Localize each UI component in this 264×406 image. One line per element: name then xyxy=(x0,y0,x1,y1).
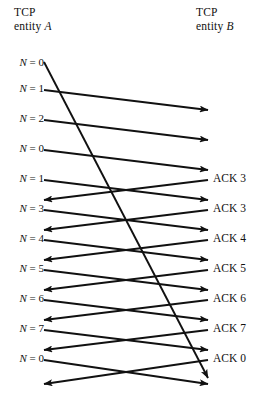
sequence-label-value: = 4 xyxy=(27,232,44,244)
ack-segment-lines xyxy=(44,180,208,384)
ack-label: ACK 5 xyxy=(213,262,246,274)
sequence-label: N = 6 xyxy=(0,292,44,304)
sequence-label: N = 0 xyxy=(0,352,44,364)
ack-label: ACK 3 xyxy=(213,202,246,214)
ack-label: ACK 0 xyxy=(213,352,246,364)
sequence-label: N = 1 xyxy=(0,82,44,94)
data-segment-line xyxy=(44,120,208,140)
header-entity-a: TCP entity A xyxy=(14,5,52,33)
data-segment-line xyxy=(44,90,208,110)
data-segment-line xyxy=(44,150,208,170)
sequence-label-variable: N xyxy=(19,142,26,154)
sequence-label-variable: N xyxy=(19,172,26,184)
sequence-label-variable: N xyxy=(19,112,26,124)
sequence-label-variable: N xyxy=(19,352,26,364)
sequence-label-value: = 3 xyxy=(27,202,44,214)
sequence-label-value: = 0 xyxy=(27,142,44,154)
data-segment-lines xyxy=(44,62,208,384)
header-entity-a-letter: A xyxy=(44,20,51,32)
sequence-label-variable: N xyxy=(19,56,26,68)
ack-label: ACK 3 xyxy=(213,172,246,184)
sequence-label-value: = 2 xyxy=(27,112,44,124)
sequence-label-variable: N xyxy=(19,82,26,94)
sequence-label-value: = 7 xyxy=(27,322,44,334)
sequence-label-value: = 0 xyxy=(27,56,44,68)
sequence-label-variable: N xyxy=(19,292,26,304)
sequence-label-variable: N xyxy=(19,232,26,244)
sequence-label: N = 4 xyxy=(0,232,44,244)
sequence-label-variable: N xyxy=(19,262,26,274)
header-entity-a-line1: TCP xyxy=(14,6,36,18)
ack-label: ACK 7 xyxy=(213,322,246,334)
ack-label: ACK 4 xyxy=(213,232,246,244)
ack-label: ACK 6 xyxy=(213,292,246,304)
sequence-label: N = 0 xyxy=(0,142,44,154)
sequence-label-value: = 5 xyxy=(27,262,44,274)
sequence-label-variable: N xyxy=(19,322,26,334)
sequence-label: N = 5 xyxy=(0,262,44,274)
sequence-label: N = 7 xyxy=(0,322,44,334)
sequence-label-value: = 1 xyxy=(27,82,44,94)
sequence-label: N = 2 xyxy=(0,112,44,124)
sequence-label-variable: N xyxy=(19,202,26,214)
sequence-label-value: = 6 xyxy=(27,292,44,304)
sequence-label: N = 0 xyxy=(0,56,44,68)
header-entity-b-letter: B xyxy=(226,20,233,32)
sequence-label-value: = 1 xyxy=(27,172,44,184)
header-entity-b: TCP entity B xyxy=(196,5,234,33)
sequence-label-value: = 0 xyxy=(27,352,44,364)
header-entity-b-line2: entity B xyxy=(196,19,234,33)
header-entity-a-line2: entity A xyxy=(14,19,52,33)
tcp-sequence-diagram: TCP entity A TCP entity B N = 0N = 1N = … xyxy=(0,0,264,406)
sequence-label: N = 3 xyxy=(0,202,44,214)
sequence-label: N = 1 xyxy=(0,172,44,184)
header-entity-b-line1: TCP xyxy=(196,6,218,18)
